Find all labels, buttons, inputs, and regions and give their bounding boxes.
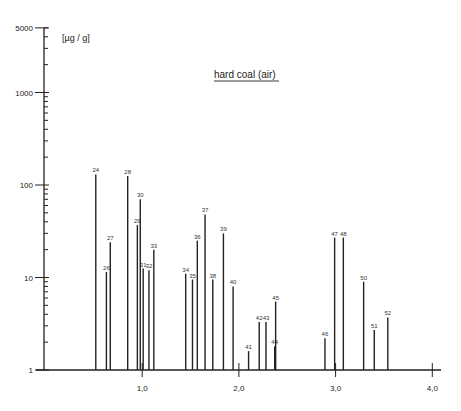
peak-label: 52 bbox=[384, 310, 391, 316]
peak-label: 24 bbox=[92, 167, 99, 173]
peaks: 2426272829303132333435363738394041424344… bbox=[92, 167, 391, 370]
y-tick-label: 10 bbox=[24, 274, 33, 283]
y-tick-label: 5000 bbox=[15, 24, 33, 33]
y-tick-label: 1000 bbox=[15, 89, 33, 98]
chart-title: hard coal (air) bbox=[214, 69, 276, 80]
peak-label: 47 bbox=[331, 231, 338, 237]
peak-label: 35 bbox=[189, 273, 196, 279]
peak-label: 37 bbox=[202, 207, 209, 213]
peak-label: 45 bbox=[272, 295, 279, 301]
y-tick-label: 1 bbox=[29, 366, 34, 375]
peak-label: 28 bbox=[124, 169, 131, 175]
peak-label: 43 bbox=[263, 315, 270, 321]
peak-label: 50 bbox=[360, 275, 367, 281]
peak-label: 48 bbox=[340, 231, 347, 237]
peak-label: 27 bbox=[107, 235, 114, 241]
x-tick-label: 4,0 bbox=[427, 384, 439, 393]
y-tick-label: 100 bbox=[20, 181, 34, 190]
peak-label: 46 bbox=[322, 331, 329, 337]
peak-label: 40 bbox=[230, 279, 237, 285]
x-tick-label: 3,0 bbox=[330, 384, 342, 393]
peak-label: 36 bbox=[194, 234, 201, 240]
peak-label: 32 bbox=[146, 263, 153, 269]
unit-label: [µg / g] bbox=[62, 33, 90, 43]
x-tick-label: 1,0 bbox=[137, 384, 149, 393]
peak-label: 51 bbox=[371, 323, 378, 329]
peak-label: 30 bbox=[137, 192, 144, 198]
chart: 110100100050001,02,03,04,0 2426272829303… bbox=[0, 0, 461, 411]
peak-label: 38 bbox=[209, 273, 216, 279]
peak-label: 33 bbox=[150, 243, 157, 249]
peak-label: 26 bbox=[103, 265, 110, 271]
x-tick-label: 2,0 bbox=[233, 384, 245, 393]
peak-label: 41 bbox=[245, 344, 252, 350]
peak-label: 39 bbox=[220, 226, 227, 232]
